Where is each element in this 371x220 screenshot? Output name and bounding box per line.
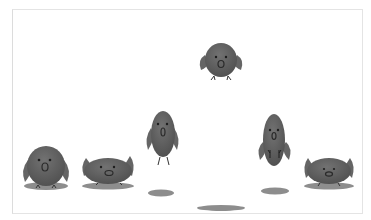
body (27, 146, 65, 186)
eye-right-icon (49, 159, 52, 162)
bird-jump-sequence (0, 0, 371, 220)
eye-left-icon (323, 168, 325, 170)
body (307, 158, 351, 184)
eye-right-icon (277, 129, 279, 131)
eye-right-icon (113, 166, 115, 168)
eye-left-icon (215, 56, 217, 58)
eye-left-icon (157, 123, 159, 125)
bird-landing-squash (304, 158, 354, 190)
bird-apex (197, 43, 245, 211)
feet (158, 157, 169, 165)
shadow (261, 188, 289, 195)
body (151, 111, 175, 157)
eye-right-icon (333, 168, 335, 170)
shadow (148, 190, 174, 197)
bird-stretch-rising (147, 111, 179, 197)
eye-right-icon (225, 56, 227, 58)
eye-right-icon (166, 123, 168, 125)
eye-left-icon (100, 166, 102, 168)
bird-stretch-falling (259, 114, 291, 195)
bird-standing (23, 146, 69, 190)
bird-squash (82, 156, 134, 190)
eye-left-icon (38, 159, 41, 162)
shadow (197, 205, 245, 211)
eye-left-icon (269, 129, 271, 131)
